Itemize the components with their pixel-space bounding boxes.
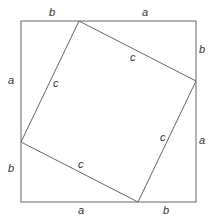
label-bottom-b: b <box>163 204 169 216</box>
label-hyp-top: c <box>130 51 136 63</box>
label-hyp-bottom: c <box>78 158 84 170</box>
label-right-b: b <box>199 43 205 55</box>
label-left-b: b <box>8 162 14 174</box>
label-top-b: b <box>49 6 55 18</box>
inner-square <box>21 21 196 202</box>
pythagorean-diagram: b a b a a b a b c c c c <box>0 0 211 217</box>
label-hyp-right: c <box>160 131 166 143</box>
label-left-a: a <box>8 74 14 86</box>
label-bottom-a: a <box>78 204 84 216</box>
label-top-a: a <box>142 6 148 18</box>
label-hyp-left: c <box>53 77 59 89</box>
outer-square <box>21 21 196 202</box>
label-right-a: a <box>199 134 205 146</box>
